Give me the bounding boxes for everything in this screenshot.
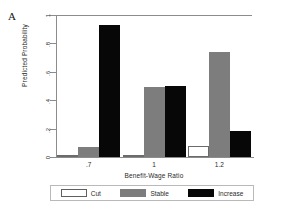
bar-stable-1 (144, 87, 165, 157)
y-tick-label: .6 (45, 71, 51, 83)
x-axis-line (50, 157, 254, 158)
legend-label-increase: Increase (218, 190, 243, 197)
x-axis-title: Benefit-Wage Ratio (56, 172, 252, 179)
legend-label-stable: Stable (150, 190, 168, 197)
x-tick-label: .7 (69, 161, 109, 168)
bar-increase-1 (165, 86, 186, 157)
legend-label-cut: Cut (91, 190, 101, 197)
legend-swatch-increase (188, 189, 214, 197)
bar-chart-figure: A Predicted Probability 0.2.4.6.81 .711.… (0, 0, 284, 210)
chart-legend: CutStableIncrease (50, 185, 254, 201)
bar-increase-p7 (99, 25, 120, 157)
bar-cut-p7 (57, 155, 78, 157)
bar-cut-1 (123, 155, 144, 157)
y-tick-label: 0 (45, 156, 51, 168)
y-tick-label: .4 (45, 99, 51, 111)
bar-cut-1p2 (188, 146, 209, 157)
y-tick-label: 1 (45, 14, 51, 26)
panel-letter-label: A (8, 10, 16, 22)
x-tick-label: 1.2 (199, 161, 239, 168)
legend-entry-increase: Increase (188, 189, 243, 197)
bar-stable-p7 (78, 147, 99, 157)
legend-swatch-cut (61, 189, 87, 197)
bars-layer (56, 15, 252, 157)
bar-stable-1p2 (209, 52, 230, 157)
legend-entry-cut: Cut (61, 189, 101, 197)
y-axis-title: Predicted Probability (21, 0, 28, 116)
y-tick-label: .8 (45, 42, 51, 54)
legend-entry-stable: Stable (120, 189, 168, 197)
x-tick-label: 1 (134, 161, 174, 168)
legend-swatch-stable (120, 189, 146, 197)
y-tick-label: .2 (45, 128, 51, 140)
bar-increase-1p2 (230, 131, 251, 157)
